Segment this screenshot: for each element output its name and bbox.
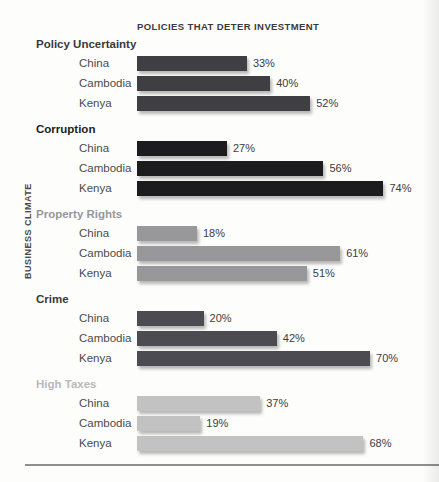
chart-title: POLICIES THAT DETER INVESTMENT (137, 21, 319, 32)
country-label: China (79, 141, 137, 156)
country-label: Kenya (79, 266, 137, 281)
country-label: China (79, 311, 137, 326)
country-label: Kenya (79, 96, 137, 111)
bar (137, 436, 363, 451)
bar (137, 311, 204, 326)
country-label: China (79, 56, 137, 71)
value-label: 40% (276, 76, 298, 91)
value-label: 61% (346, 246, 368, 261)
group-crime: Crime China 20% Cambodia 42% Kenya 70% (0, 292, 439, 371)
bar-row: Cambodia 42% (0, 331, 439, 351)
country-label: Cambodia (79, 161, 137, 176)
bar (137, 96, 310, 111)
bar-row: Cambodia 19% (0, 416, 439, 436)
bar-row: Cambodia 40% (0, 76, 439, 96)
value-label: 56% (329, 161, 351, 176)
bar-row: China 27% (0, 141, 439, 161)
country-label: Cambodia (79, 246, 137, 261)
bar (137, 246, 340, 261)
country-label: Cambodia (79, 331, 137, 346)
bar (137, 266, 307, 281)
country-label: Kenya (79, 181, 137, 196)
bar (137, 396, 260, 411)
country-label: China (79, 226, 137, 241)
bar (137, 181, 383, 196)
country-label: Cambodia (79, 76, 137, 91)
country-label: Kenya (79, 351, 137, 366)
group-label: Crime (36, 292, 439, 306)
value-label: 27% (233, 141, 255, 156)
bar (137, 76, 270, 91)
group-property-rights: Property Rights China 18% Cambodia 61% K… (0, 207, 439, 286)
value-label: 74% (389, 181, 411, 196)
chart-page: POLICIES THAT DETER INVESTMENT BUSINESS … (0, 0, 439, 482)
value-label: 19% (206, 416, 228, 431)
value-label: 42% (283, 331, 305, 346)
bar-row: China 18% (0, 226, 439, 246)
bar-row: China 37% (0, 396, 439, 416)
value-label: 37% (266, 396, 288, 411)
bar (137, 56, 247, 71)
group-label: Corruption (36, 122, 439, 136)
group-label: Property Rights (36, 207, 439, 221)
group-label: Policy Uncertainty (36, 37, 439, 51)
value-label: 20% (210, 311, 232, 326)
bar-row: China 20% (0, 311, 439, 331)
bar (137, 141, 227, 156)
value-label: 70% (376, 351, 398, 366)
bar-row: Kenya 74% (0, 181, 439, 201)
value-label: 51% (313, 266, 335, 281)
group-policy-uncertainty: Policy Uncertainty China 33% Cambodia 40… (0, 37, 439, 116)
country-label: China (79, 396, 137, 411)
country-label: Kenya (79, 436, 137, 451)
bar (137, 351, 370, 366)
bar-row: Cambodia 61% (0, 246, 439, 266)
bar-row: Kenya 52% (0, 96, 439, 116)
value-label: 68% (369, 436, 391, 451)
value-label: 18% (203, 226, 225, 241)
bar-row: Kenya 51% (0, 266, 439, 286)
bar (137, 161, 323, 176)
bottom-rule (25, 464, 439, 466)
bar-row: Cambodia 56% (0, 161, 439, 181)
bar (137, 416, 200, 431)
bar-row: Kenya 70% (0, 351, 439, 371)
group-corruption: Corruption China 27% Cambodia 56% Kenya … (0, 122, 439, 201)
bar (137, 226, 197, 241)
bar (137, 331, 277, 346)
bar-groups: Policy Uncertainty China 33% Cambodia 40… (0, 37, 439, 462)
bar-row: China 33% (0, 56, 439, 76)
bar-row: Kenya 68% (0, 436, 439, 456)
group-label: High Taxes (36, 377, 439, 391)
group-high-taxes: High Taxes China 37% Cambodia 19% Kenya … (0, 377, 439, 456)
value-label: 52% (316, 96, 338, 111)
value-label: 33% (253, 56, 275, 71)
country-label: Cambodia (79, 416, 137, 431)
